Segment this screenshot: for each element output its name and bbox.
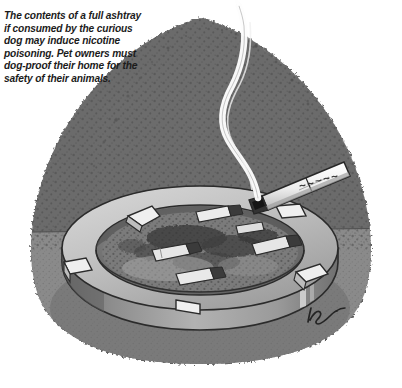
caption-line: dog-proof their home for the [4,60,156,73]
ashtray [62,186,338,330]
caption-line: poisoning. Pet owners must [4,48,156,61]
rim-notch-upper-right [276,204,306,218]
caption-line: if consumed by the curious [4,23,156,36]
caption-line: safety of their animals. [4,73,156,86]
caption-text: The contents of a full ashtray if consum… [4,10,156,86]
caption-line: The contents of a full ashtray [4,10,156,23]
caption-line: dog may induce nicotine [4,35,156,48]
illustration-canvas: The contents of a full ashtray if consum… [0,0,402,388]
